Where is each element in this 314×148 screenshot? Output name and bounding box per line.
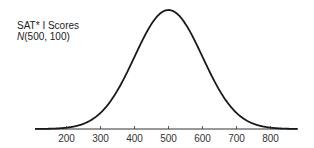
x-tick-label: 400 — [126, 133, 143, 144]
x-tick-label: 300 — [92, 133, 109, 144]
x-tick-label: 800 — [262, 133, 279, 144]
normal-curve — [35, 10, 297, 129]
x-tick-label: 700 — [228, 133, 245, 144]
x-tick-label: 600 — [194, 133, 211, 144]
x-tick-label: 200 — [58, 133, 75, 144]
x-tick-label: 500 — [160, 133, 177, 144]
normal-curve-chart: 200300400500600700800 — [0, 0, 314, 148]
